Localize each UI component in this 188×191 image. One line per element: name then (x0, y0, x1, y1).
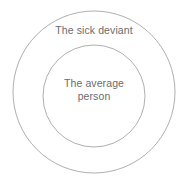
outer-ring-label: The sick deviant (0, 24, 188, 37)
inner-circle-label: The average person (19, 77, 169, 103)
